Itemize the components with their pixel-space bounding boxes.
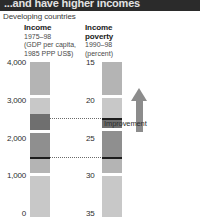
income-band-1998 [30,114,50,130]
right-axis-tick-1: 20 [86,96,95,105]
right-axis-tick-0: 15 [86,58,95,67]
income-band-bottom [30,176,50,217]
figure-title: ...and have higher incomes [4,0,140,9]
income-band-2 [30,98,50,114]
left-axis-tick-2: 2,000 [7,134,26,143]
column-header-poverty-title-2: poverty [85,33,113,42]
improvement-label: Improvement [104,119,147,128]
plot-area: 4,000 3,000 2,000 1,000 0 15 20 25 [0,57,200,222]
right-axis-tick-3: 30 [86,171,95,180]
left-axis-tick-4: 0 [22,209,26,218]
left-axis-tick-3: 1,000 [7,171,26,180]
poverty-band-5 [102,159,122,173]
poverty-band-4 [102,131,122,157]
income-band-top [30,62,50,95]
right-axis-tick-4: 35 [86,209,95,218]
income-column [30,62,50,217]
poverty-band-bottom [102,176,122,217]
figure-subtitle: Developing countries [3,12,76,21]
poverty-column [102,62,122,217]
figure-title-bar: ...and have higher incomes [0,0,200,11]
column-header-poverty: Income poverty 1990–98 (percent) [85,24,113,58]
column-header-income-unit-1: (GDP per capita, [24,41,76,50]
column-header-income-title: Income [24,24,76,33]
poverty-band-2 [102,98,122,118]
right-axis: 15 20 25 30 35 [86,57,102,222]
income-band-3 [30,133,50,157]
right-axis-tick-2: 25 [86,134,95,143]
arrow-head [131,88,147,101]
poverty-band-top [102,62,122,95]
left-axis-tick-0: 4,000 [7,58,26,67]
figure-root: ...and have higher incomes Developing co… [0,0,200,222]
column-header-poverty-period: 1990–98 [85,41,113,50]
left-axis-tick-1: 3,000 [7,96,26,105]
column-header-income: Income 1975–98 (GDP per capita, 1985 PPP… [24,24,76,58]
left-axis: 4,000 3,000 2,000 1,000 0 [0,57,26,222]
income-band-4 [30,159,50,173]
column-header-income-period: 1975–98 [24,33,76,42]
